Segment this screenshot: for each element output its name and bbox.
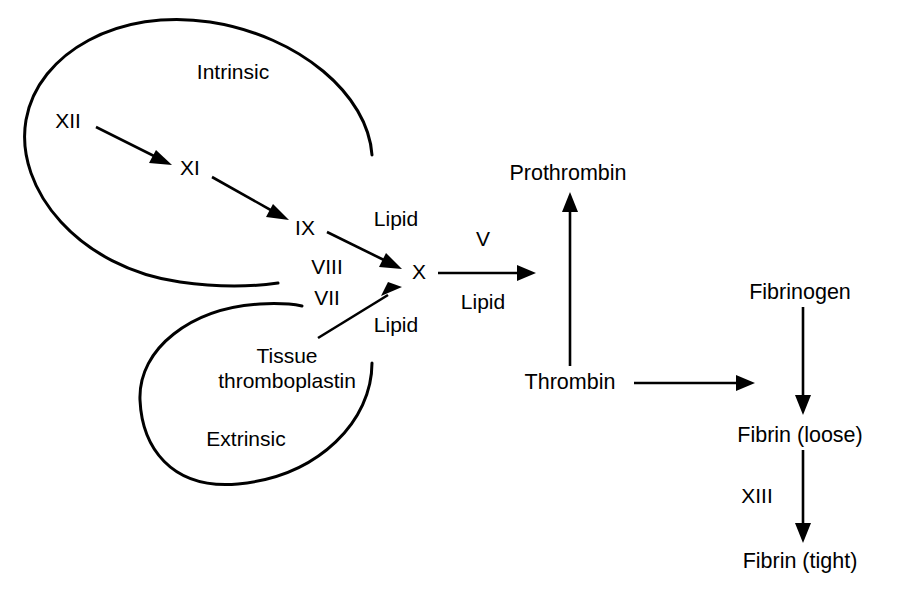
intrinsic-pathway-label: Intrinsic	[197, 60, 269, 83]
arrow-fibrinogen-to-fibrin-loose-head	[795, 395, 811, 415]
node-factor-v: V	[476, 227, 490, 250]
node-tissue-thromboplastin-line1: Tissue	[256, 344, 317, 367]
extrinsic-pathway-label: Extrinsic	[206, 427, 285, 450]
coagulation-cascade-diagram: Intrinsic XII XI IX VIII VII Lipid Lipid…	[0, 0, 907, 599]
node-factor-xi: XI	[180, 156, 200, 179]
node-factor-ix: IX	[295, 216, 315, 239]
cofactor-lipid-lower: Lipid	[374, 313, 418, 336]
node-factor-vii: VII	[314, 286, 340, 309]
node-fibrin-loose: Fibrin (loose)	[737, 423, 862, 447]
arrow-ix-to-x-head	[379, 253, 402, 269]
node-fibrin-tight: Fibrin (tight)	[743, 549, 858, 573]
arrow-fibrin-loose-to-tight-head	[795, 523, 811, 543]
cascade-canvas: Intrinsic XII XI IX VIII VII Lipid Lipid…	[0, 0, 907, 599]
arrow-xii-to-xi-line	[96, 127, 160, 159]
node-thrombin: Thrombin	[525, 370, 616, 394]
extrinsic-loop-arc	[140, 304, 372, 485]
node-fibrinogen: Fibrinogen	[749, 280, 851, 304]
node-tissue-thromboplastin-line2: thromboplastin	[218, 369, 356, 392]
node-factor-xiii: XIII	[741, 484, 773, 507]
arrow-xi-to-ix-head	[266, 204, 289, 220]
cofactor-lipid-middle: Lipid	[461, 290, 505, 313]
arrow-thrombin-to-fibrin-head	[736, 375, 755, 391]
node-prothrombin: Prothrombin	[509, 161, 626, 185]
node-factor-x: X	[412, 260, 426, 283]
arrow-x-to-thrombin-head	[517, 265, 536, 281]
cofactor-lipid-upper: Lipid	[374, 207, 418, 230]
arrow-xi-to-ix-line	[212, 177, 276, 213]
arrow-xii-to-xi-head	[149, 150, 172, 165]
arrow-vii-to-x-head	[381, 282, 402, 296]
node-factor-viii: VIII	[311, 255, 343, 278]
node-factor-xii: XII	[55, 109, 81, 132]
arrow-thrombin-to-prothrombin-head	[562, 192, 578, 212]
